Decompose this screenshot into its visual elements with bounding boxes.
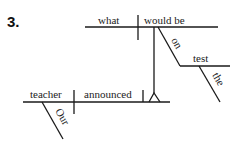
prep-object-word: test	[193, 52, 208, 64]
clause-subject-word: what	[98, 14, 119, 26]
preposition-word: on	[169, 35, 185, 51]
pedestal-base	[149, 93, 160, 102]
sentence-diagram: 3. what would be on test the teacher ann…	[0, 0, 236, 147]
subject-word: teacher	[30, 88, 62, 100]
subject-modifier-word: Our	[53, 106, 72, 127]
verb-word: announced	[84, 88, 132, 100]
problem-number: 3.	[7, 13, 20, 30]
prep-object-modifier-word: the	[210, 70, 227, 88]
clause-verb-word: would be	[144, 14, 185, 26]
